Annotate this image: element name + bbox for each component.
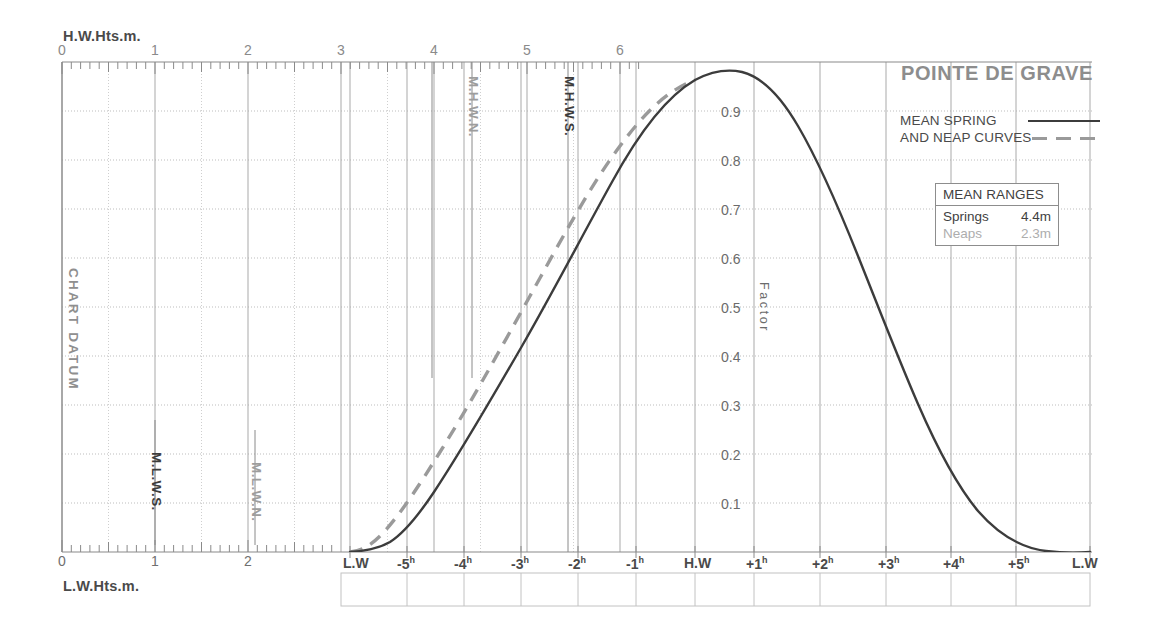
time-label-plus2: +2h bbox=[812, 555, 833, 572]
factor-tick-0.2: 0.2 bbox=[721, 447, 740, 463]
top-axis-title: H.W.Hts.m. bbox=[63, 28, 141, 44]
factor-tick-0.7: 0.7 bbox=[721, 202, 740, 218]
bottom-tick-0: 0 bbox=[58, 553, 66, 569]
mean-ranges-header: MEAN RANGES bbox=[936, 184, 1058, 206]
tidal-curve-plot bbox=[0, 0, 1156, 639]
tidal-curve-page: H.W.Hts.m. 0 1 2 3 4 5 6 0 1 2 L.W.Hts.m… bbox=[0, 0, 1156, 639]
chart-datum-label: CHART DATUM bbox=[66, 268, 81, 391]
dashed-line-icon bbox=[1032, 133, 1100, 143]
neaps-value: 2.3m bbox=[1021, 226, 1051, 241]
time-label-lw-right: L.W bbox=[1072, 555, 1098, 571]
factor-tick-0.5: 0.5 bbox=[721, 300, 740, 316]
mhwn-label: M.H.W.N. bbox=[466, 76, 481, 137]
neaps-label: Neaps bbox=[943, 226, 982, 241]
springs-label: Springs bbox=[943, 209, 989, 224]
time-label-minus1: -1h bbox=[626, 555, 644, 572]
factor-tick-0.8: 0.8 bbox=[721, 153, 740, 169]
time-label-minus3: -3h bbox=[511, 555, 529, 572]
time-label-plus5: +5h bbox=[1008, 555, 1029, 572]
solid-line-icon bbox=[1028, 116, 1100, 126]
mlws-label: M.L.W.S. bbox=[149, 452, 164, 511]
time-label-plus3: +3h bbox=[878, 555, 899, 572]
time-label-hw: H.W bbox=[684, 555, 711, 571]
mean-ranges-springs-row: Springs 4.4m bbox=[936, 206, 1058, 225]
factor-tick-0.6: 0.6 bbox=[721, 251, 740, 267]
legend-row-spring: MEAN SPRING bbox=[900, 112, 1100, 129]
time-label-minus2: -2h bbox=[568, 555, 586, 572]
time-label-plus4: +4h bbox=[943, 555, 964, 572]
top-tick-5: 5 bbox=[523, 42, 531, 58]
factor-axis-label: Factor bbox=[757, 282, 771, 333]
springs-value: 4.4m bbox=[1021, 209, 1051, 224]
bottom-axis-title: L.W.Hts.m. bbox=[63, 578, 139, 594]
top-tick-3: 3 bbox=[337, 42, 345, 58]
page-title: POINTE DE GRAVE bbox=[901, 62, 1093, 85]
neap-curve bbox=[350, 80, 695, 552]
factor-tick-0.3: 0.3 bbox=[721, 398, 740, 414]
legend-label-neap: AND NEAP CURVES bbox=[900, 130, 1032, 145]
mlwn-label: M.L.W.N. bbox=[249, 462, 264, 521]
time-label-minus4: -4h bbox=[454, 555, 472, 572]
top-tick-4: 4 bbox=[430, 42, 438, 58]
factor-tick-0.1: 0.1 bbox=[721, 496, 740, 512]
top-tick-0: 0 bbox=[58, 42, 66, 58]
time-label-minus5: -5h bbox=[397, 555, 415, 572]
mean-ranges-box: MEAN RANGES Springs 4.4m Neaps 2.3m bbox=[935, 183, 1059, 246]
curve-legend: MEAN SPRING AND NEAP CURVES bbox=[900, 112, 1100, 146]
legend-row-neap: AND NEAP CURVES bbox=[900, 129, 1100, 146]
time-label-plus1: +1h bbox=[746, 555, 767, 572]
factor-tick-0.4: 0.4 bbox=[721, 349, 740, 365]
top-tick-2: 2 bbox=[244, 42, 252, 58]
bottom-tick-2: 2 bbox=[244, 553, 252, 569]
factor-tick-0.9: 0.9 bbox=[721, 104, 740, 120]
mhws-label: M.H.W.S. bbox=[562, 76, 577, 136]
top-tick-6: 6 bbox=[616, 42, 624, 58]
legend-label-spring: MEAN SPRING bbox=[900, 113, 997, 128]
bottom-axis bbox=[62, 540, 1092, 552]
time-label-lw-left: L.W bbox=[343, 555, 369, 571]
top-tick-1: 1 bbox=[151, 42, 159, 58]
mean-ranges-neaps-row: Neaps 2.3m bbox=[936, 225, 1058, 245]
bottom-tick-1: 1 bbox=[151, 553, 159, 569]
